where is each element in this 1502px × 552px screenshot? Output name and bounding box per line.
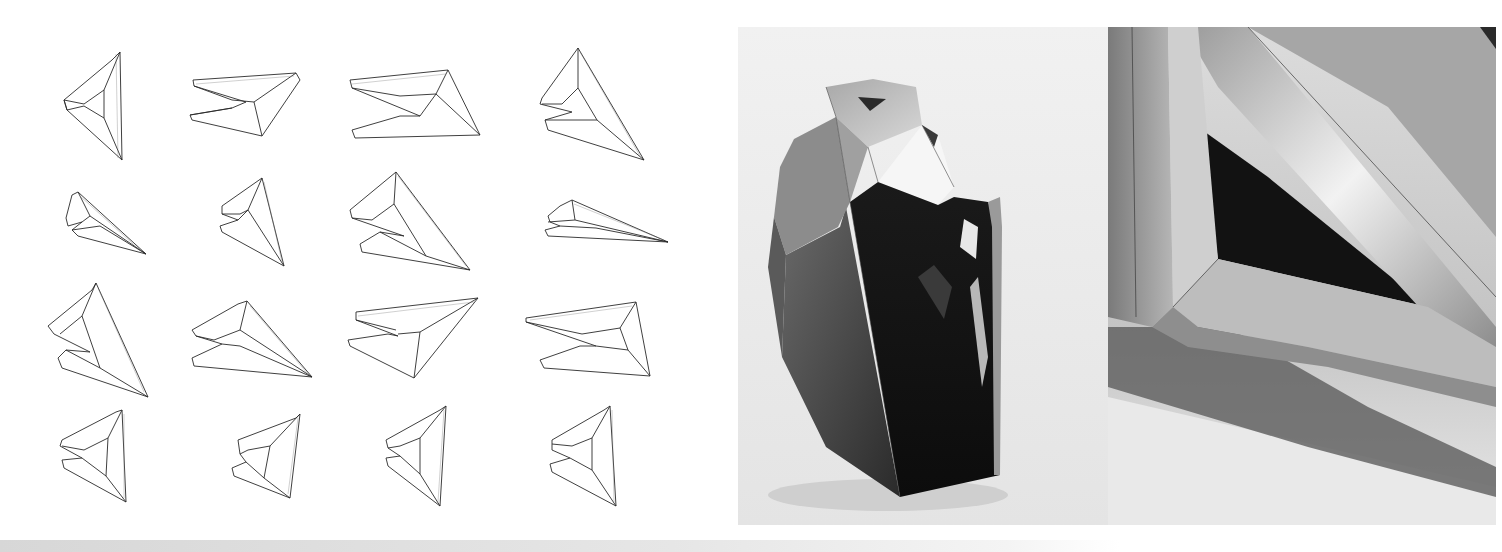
detail-photo-svg (1108, 27, 1496, 525)
line-drawings-grid (0, 0, 720, 530)
drawing-11 (348, 298, 478, 378)
pod-model-photo-svg (738, 27, 1122, 525)
drawing-7 (350, 172, 470, 270)
drawing-3 (350, 70, 480, 138)
folded-metal-detail-closeup-photo (1108, 27, 1496, 525)
drawing-14 (232, 414, 300, 498)
page-bottom-gray-strip (0, 540, 1120, 552)
drawing-2 (190, 73, 300, 136)
drawing-13 (60, 410, 126, 502)
folded-metal-pod-model-photo (738, 27, 1122, 525)
drawing-8 (545, 200, 668, 242)
drawing-9 (48, 283, 148, 397)
drawing-1 (64, 52, 122, 160)
drawing-12 (526, 302, 650, 376)
drawing-10 (192, 301, 312, 377)
drawing-4 (540, 48, 644, 160)
drawing-6 (220, 178, 284, 266)
drawing-15 (386, 406, 446, 506)
module-drawings-svg (0, 0, 720, 530)
drawing-16 (550, 406, 616, 506)
